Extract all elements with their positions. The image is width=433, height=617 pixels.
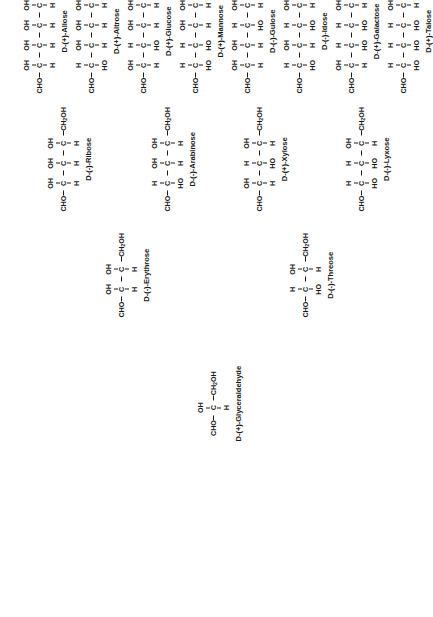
horizontal-bond [259,190,260,195]
ch2oh-terminus: CH2OH [164,107,171,131]
substituent-top: OH [22,60,32,71]
substituent-bottom: H [307,2,317,7]
substituent-bottom: HO [411,40,421,51]
substituent-bottom: H [307,42,317,47]
stereocenter-1: OHCH [334,57,369,72]
substituent-top: OH [22,0,32,10]
substituent-bottom: H [47,62,57,67]
carbon-atom: C [88,42,95,47]
stereocenter-1: HCHO [344,175,379,190]
fischer-projection: CHOOHCHOHCHHCHOOHCHCH2OHD-(-)-Gulose [230,0,276,93]
horizontal-bond [259,170,260,175]
molecule-talose: CHOHCHOHCHOHCHOOHCHCH2OHD-(+)-Talose [386,0,432,93]
stereocenter-1: HCHO [386,57,421,72]
carbon-atom: C [400,22,407,27]
carbon-atom: C [348,42,355,47]
substituent-bottom: H [175,160,185,165]
horizontal-bond [351,72,352,77]
molecule-label: D-(-)-Erythrose [143,248,151,301]
carbon-atom: C [400,42,407,47]
carbon-atom: C [164,140,171,145]
substituent-top: OH [386,0,396,10]
carbon-atom: C [256,160,263,165]
horizontal-bond [121,276,122,281]
molecule-label: D-(-)-Arabinose [189,132,197,187]
carbon-atom: C [210,405,217,410]
carbon-atom: C [296,62,303,67]
horizontal-bond [305,276,306,281]
horizontal-bond [299,32,300,37]
ch2oh-terminus: CH2OH [118,233,125,257]
substituent-top: OH [126,60,136,71]
substituent-top: H [74,62,84,67]
substituent-bottom: H [99,42,109,47]
substituent-top: OH [74,0,84,10]
carbon-atom: C [348,2,355,7]
carbon-atom: C [164,180,171,185]
substituent-top: OH [104,264,114,275]
substituent-bottom: HO [359,20,369,31]
horizontal-bond [351,32,352,37]
substituent-bottom: HO [411,20,421,31]
ch2oh-terminus: CH2OH [358,107,365,131]
horizontal-bond [63,150,64,155]
carbon-atom: C [358,180,365,185]
carbon-atom: C [358,160,365,165]
substituent-top: OH [344,138,354,149]
horizontal-bond [63,170,64,175]
fischer-projection: CHOHCHOOHCHCH2OHD-(-)-Threose [288,233,334,317]
carbon-atom: C [400,2,407,7]
molecule-label: D-(+)-Mannose [217,5,225,57]
carbon-chain: CHOOHCHCH2OH [196,371,231,435]
stereocenter-1: OHCH [104,281,139,296]
horizontal-bond [39,72,40,77]
stereocenter-3: OHCH [126,17,161,32]
carbon-atom: C [60,140,67,145]
molecule-altrose: CHOHCHOOHCHOHCHOHCHCH2OHD-(+)-Altrose [74,0,120,93]
horizontal-bond [39,52,40,57]
substituent-bottom: HO [203,40,213,51]
substituent-bottom: HO [359,40,369,51]
horizontal-bond [167,170,168,175]
carbon-atom: C [192,42,199,47]
horizontal-bond [299,12,300,17]
horizontal-bond [143,12,144,17]
stereocenter-1: OHCH [126,57,161,72]
carbon-atom: C [400,62,407,67]
ch2oh-terminus: CH2OH [60,107,67,131]
substituent-top: H [242,160,252,165]
stereocenter-3: HCHO [386,17,421,32]
molecule-label: D-(+)-Altrose [113,8,121,54]
molecule-label: D-(-)-Gulose [269,9,277,52]
substituent-bottom: H [47,42,57,47]
substituent-top: OH [22,40,32,51]
stereocenter-4: OHCH [282,0,317,12]
stereocenter-2: HCHO [386,37,421,52]
carbon-chain: CHOOHCHHCHOHCHOOHCHCH2OH [334,0,369,93]
horizontal-bond [63,130,64,135]
substituent-top: H [282,62,292,67]
stereocenter-2: OHCH [230,37,265,52]
substituent-bottom: H [175,140,185,145]
molecule-allose: CHOOHCHOHCHOHCHOHCHCH2OHD-(+)-Allose [22,0,68,93]
substituent-top: OH [46,178,56,189]
horizontal-bond [121,256,122,261]
substituent-top: OH [74,40,84,51]
cho-terminus: CHO [358,195,365,211]
carbon-atom: C [36,2,43,7]
substituent-top: OH [126,20,136,31]
substituent-top: OH [288,264,298,275]
stereocenter-3: OHCH [242,135,277,150]
substituent-bottom: H [99,2,109,7]
carbon-atom: C [296,22,303,27]
substituent-bottom: H [47,2,57,7]
substituent-bottom: H [129,286,139,291]
cho-terminus: CHO [244,77,251,93]
substituent-top: OH [230,0,240,10]
substituent-top: OH [282,0,292,10]
substituent-top: OH [22,20,32,31]
horizontal-bond [121,296,122,301]
horizontal-bond [143,52,144,57]
